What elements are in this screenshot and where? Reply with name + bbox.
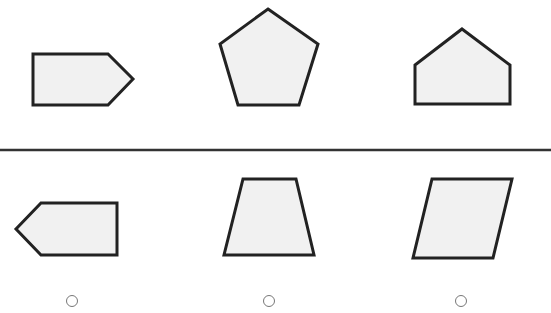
shape-right-arrow-pentagon [33,54,133,105]
shape-regular-pentagon [220,9,318,105]
answer-option-1[interactable] [16,203,117,307]
shape-trapezoid[interactable] [224,179,314,255]
shape-left-arrow-pentagon[interactable] [16,203,117,255]
answer-option-3[interactable] [413,179,512,307]
answer-option-2[interactable] [224,179,314,307]
shape-parallelogram[interactable] [413,179,512,258]
radio-option-2[interactable] [264,296,275,307]
shape-house-pentagon [415,29,510,104]
figure-canvas [0,0,551,313]
answer-row [16,179,512,307]
radio-option-3[interactable] [456,296,467,307]
question-row [33,9,510,105]
radio-option-1[interactable] [67,296,78,307]
